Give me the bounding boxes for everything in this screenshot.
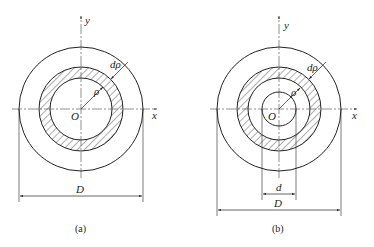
radius-label: ρ bbox=[93, 85, 99, 97]
x-axis-label: x bbox=[351, 109, 357, 121]
y-axis-label: y bbox=[283, 19, 289, 31]
radius-line bbox=[279, 88, 300, 109]
origin-label: O bbox=[268, 110, 276, 122]
inner-diameter-label: d bbox=[276, 181, 282, 193]
diagram-canvas: y x O ρ dρ D (a) y x O ρ dρ d bbox=[0, 0, 374, 247]
thickness-label: dρ bbox=[307, 61, 318, 73]
radius-label: ρ bbox=[290, 86, 296, 98]
y-axis-label: y bbox=[84, 14, 90, 26]
figure-caption: (a) bbox=[75, 223, 86, 235]
x-axis-label: x bbox=[151, 109, 157, 121]
origin-label: O bbox=[71, 110, 79, 122]
radius-line bbox=[81, 87, 103, 109]
figure-b: y x O ρ dρ d D (b) bbox=[210, 16, 357, 235]
outer-diameter-label: D bbox=[273, 197, 282, 209]
figure-caption: (b) bbox=[272, 223, 284, 235]
figure-a: y x O ρ dρ D (a) bbox=[12, 14, 157, 235]
thickness-label: dρ bbox=[110, 58, 121, 70]
outer-diameter-label: D bbox=[75, 183, 84, 195]
